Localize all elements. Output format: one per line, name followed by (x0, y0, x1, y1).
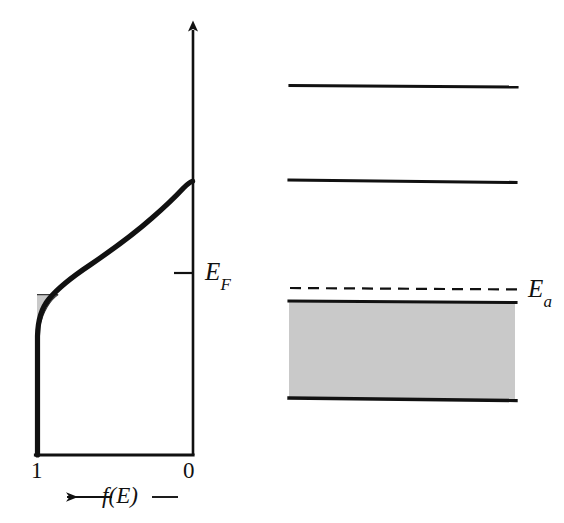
fermi-level-label-subscript: F (221, 275, 231, 294)
acceptor-level-dashed-line (290, 288, 524, 290)
figure-vector-layer (0, 0, 564, 523)
tick-label-zero: 0 (183, 459, 195, 482)
acceptor-level-label-subscript: a (544, 292, 553, 311)
fermi-level-label-main: E (205, 258, 220, 285)
tick-label-one: 1 (31, 459, 43, 482)
figure-canvas: EF Ea 1 0 f(E) (0, 0, 564, 523)
acceptor-level-label-main: E (528, 275, 543, 302)
conduction-band-lower-line (289, 180, 516, 183)
conduction-band-upper-line (290, 86, 517, 88)
axis-caption-fe: f(E) (40, 483, 200, 509)
acceptor-level-label: Ea (528, 276, 552, 306)
fermi-dirac-curve (38, 181, 193, 455)
valence-band-top-line (289, 301, 516, 303)
fermi-level-label: EF (205, 259, 231, 289)
valence-band-shading (289, 301, 515, 399)
